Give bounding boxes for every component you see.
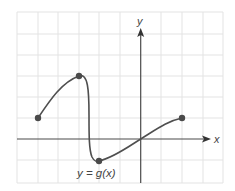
- local-maximum-point: [76, 73, 82, 79]
- function-graph: x y y = g(x): [0, 0, 235, 191]
- function-curve: [38, 76, 182, 162]
- curve-label: y = g(x): [76, 167, 116, 179]
- local-minimum-point: [96, 158, 102, 164]
- y-axis-label: y: [136, 15, 144, 27]
- x-axis-label: x: [213, 133, 220, 145]
- right-endpoint: [179, 115, 185, 121]
- left-endpoint: [35, 115, 41, 121]
- grid: [17, 12, 223, 183]
